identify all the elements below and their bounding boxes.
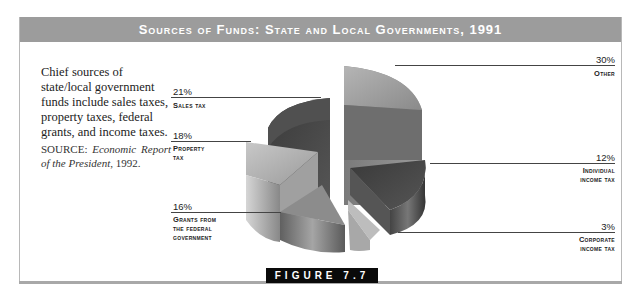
label-name: the federal — [173, 224, 253, 233]
label-name: tax — [173, 153, 233, 162]
figure-title: Sources of Funds: State and Local Govern… — [139, 22, 503, 37]
label-pct: 18% — [173, 130, 233, 142]
pie-chart — [230, 60, 450, 260]
label-name: Property — [173, 144, 233, 153]
label-pct: 12% — [540, 152, 615, 164]
label-name: government — [173, 233, 253, 242]
label-pct: 3% — [540, 221, 615, 233]
label-pct: 30% — [540, 54, 615, 66]
label-individual-income-tax: 12% Individual income tax — [540, 152, 615, 184]
label-name: Other — [540, 69, 615, 78]
source-label: SOURCE: — [41, 143, 87, 155]
label-corporate-income-tax: 3% Corporate income tax — [540, 221, 615, 253]
label-pct: 21% — [173, 86, 233, 98]
label-name: Corporate — [540, 235, 615, 244]
label-pct: 16% — [173, 201, 253, 213]
caption-text: Chief sources of state/local government … — [41, 65, 171, 140]
figure-number-label: FIGURE 7.7 — [266, 268, 378, 283]
label-other: 30% Other — [540, 54, 615, 78]
label-sales-tax: 21% Sales tax — [173, 86, 233, 110]
label-name: Grants from — [173, 215, 253, 224]
source-year: , 1992. — [110, 157, 140, 169]
label-grants: 16% Grants from the federal government — [173, 201, 253, 242]
figure-header: Sources of Funds: State and Local Govern… — [20, 17, 621, 42]
label-name: Sales tax — [173, 101, 233, 110]
label-property-tax: 18% Property tax — [173, 130, 233, 162]
label-name: income tax — [540, 175, 615, 184]
label-name: income tax — [540, 244, 615, 253]
source-citation: SOURCE: Economic Report of the President… — [41, 142, 171, 170]
label-name: Individual — [540, 166, 615, 175]
